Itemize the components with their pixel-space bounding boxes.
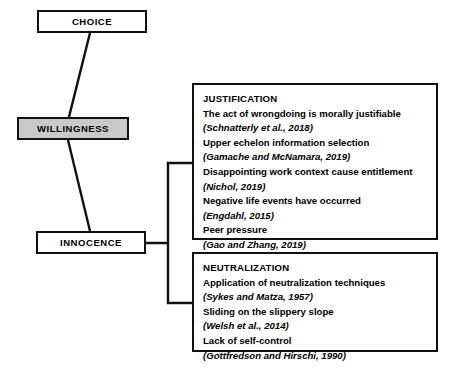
item-citation: (Welsh et al., 2014) (203, 319, 436, 334)
connector-innocence-bracket (146, 163, 192, 303)
item-citation: (Nichol, 2019) (203, 180, 436, 195)
item-citation: (Gamache and McNamara, 2019) (203, 150, 436, 165)
item-citation: (Schnatterly et al., 2018) (203, 121, 436, 136)
connector-choice-willingness (69, 33, 90, 117)
node-choice: CHOICE (37, 10, 147, 33)
item-claim: Application of neutralization techniques (203, 276, 436, 291)
item-claim: Upper echelon information selection (203, 136, 436, 151)
node-innocence: INNOCENCE (36, 231, 146, 254)
list-item: The act of wrongdoing is morally justifi… (203, 107, 436, 136)
item-claim: The act of wrongdoing is morally justifi… (203, 107, 436, 122)
list-item: Peer pressure (Gao and Zhang, 2019) (203, 223, 436, 252)
panel-justification-items: The act of wrongdoing is morally justifi… (203, 107, 436, 253)
node-willingness-label: WILLINGNESS (37, 123, 109, 134)
list-item: Disappointing work context cause entitle… (203, 165, 436, 194)
panel-justification-title: JUSTIFICATION (203, 92, 436, 107)
item-citation: (Gottfredson and Hirschi, 1990) (203, 349, 436, 364)
list-item: Upper echelon information selection (Gam… (203, 136, 436, 165)
panel-neutralization-title: NEUTRALIZATION (203, 261, 436, 276)
connector-willingness-innocence (68, 140, 90, 231)
node-choice-label: CHOICE (72, 16, 112, 27)
list-item: Lack of self-control (Gottfredson and Hi… (203, 334, 436, 363)
item-claim: Negative life events have occurred (203, 194, 436, 209)
item-citation: (Gao and Zhang, 2019) (203, 238, 436, 253)
node-willingness: WILLINGNESS (17, 117, 129, 140)
diagram-canvas: CHOICE WILLINGNESS INNOCENCE JUSTIFICATI… (0, 0, 449, 372)
item-claim: Sliding on the slippery slope (203, 305, 436, 320)
panel-justification: JUSTIFICATION The act of wrongdoing is m… (192, 83, 438, 240)
item-claim: Peer pressure (203, 223, 436, 238)
item-citation: (Sykes and Matza, 1957) (203, 290, 436, 305)
list-item: Negative life events have occurred (Engd… (203, 194, 436, 223)
item-citation: (Engdahl, 2015) (203, 209, 436, 224)
panel-neutralization-items: Application of neutralization techniques… (203, 276, 436, 364)
panel-neutralization: NEUTRALIZATION Application of neutraliza… (192, 252, 438, 352)
item-claim: Lack of self-control (203, 334, 436, 349)
list-item: Sliding on the slippery slope (Welsh et … (203, 305, 436, 334)
item-claim: Disappointing work context cause entitle… (203, 165, 436, 180)
list-item: Application of neutralization techniques… (203, 276, 436, 305)
node-innocence-label: INNOCENCE (60, 237, 122, 248)
